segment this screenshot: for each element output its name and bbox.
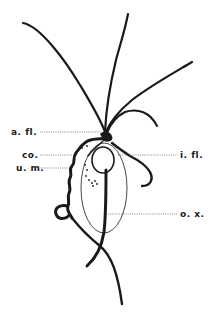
internal-flagellum: [112, 143, 152, 186]
label-costa: co.: [22, 150, 38, 160]
anterior-flagella: [23, 14, 192, 133]
flagella-base: [100, 132, 112, 142]
label-axostyle: o. x.: [180, 209, 204, 219]
label-internal-flagellum: i. fl.: [180, 150, 203, 160]
nucleus: [92, 147, 114, 173]
axostyle: [72, 170, 122, 304]
label-undulating-membrane: u. m.: [16, 163, 44, 173]
leader-lines: [38, 132, 178, 214]
label-anterior-flagella: a. fl.: [11, 127, 37, 137]
protozoan-diagram: a. fl. co. u. m. i. fl. o. x.: [0, 0, 212, 319]
